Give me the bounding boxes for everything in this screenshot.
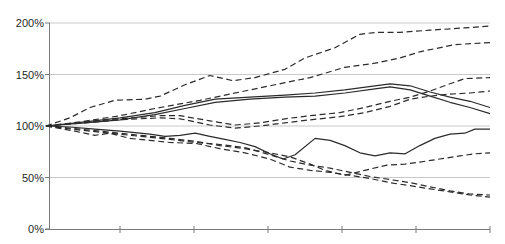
series-2 <box>46 43 490 126</box>
series-9 <box>46 126 490 195</box>
y-axis-label-100: 100% <box>0 120 44 132</box>
y-axis-label-50: 50% <box>0 172 44 184</box>
chart-container: 200% 150% 100% 50% 0% <box>0 0 505 244</box>
axes <box>45 23 490 233</box>
line-chart <box>0 0 505 244</box>
series-1 <box>46 26 490 126</box>
y-axis-label-200: 200% <box>0 17 44 29</box>
y-axis-label-150: 150% <box>0 69 44 81</box>
y-axis-label-0: 0% <box>0 223 44 235</box>
plot-series <box>46 26 490 197</box>
